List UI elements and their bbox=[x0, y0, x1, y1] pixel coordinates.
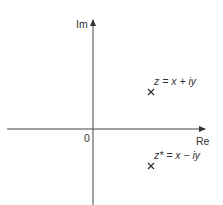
origin-label: 0 bbox=[84, 133, 90, 144]
point-z-label: z = x + iy bbox=[154, 76, 196, 87]
imaginary-axis-label: Im bbox=[76, 19, 88, 30]
point-z-conjugate-label: z* = x − iy bbox=[154, 150, 200, 161]
point-z-conjugate-marker bbox=[148, 163, 154, 169]
complex-plane-diagram bbox=[0, 0, 223, 205]
real-axis-label: Re bbox=[196, 136, 209, 147]
point-z-marker bbox=[148, 89, 154, 95]
